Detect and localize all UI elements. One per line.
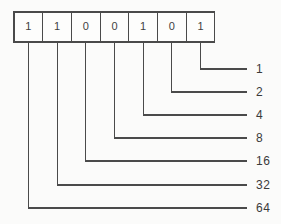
leader-line-64 — [28, 42, 247, 208]
place-value-label-8: 8 — [256, 131, 263, 145]
binary-place-value-diagram: 1100101 1248163264 — [0, 0, 281, 224]
place-value-label-2: 2 — [256, 85, 263, 99]
place-value-label-32: 32 — [256, 178, 270, 192]
bit-value-1: 1 — [54, 20, 60, 32]
place-value-labels-group: 1248163264 — [256, 62, 270, 215]
bit-value-6: 1 — [197, 20, 203, 32]
leader-line-2 — [172, 42, 247, 92]
place-value-label-64: 64 — [256, 201, 270, 215]
bit-value-4: 1 — [140, 20, 146, 32]
bit-value-2: 0 — [83, 20, 89, 32]
bit-cells-row: 1100101 — [14, 12, 215, 42]
leader-line-16 — [86, 42, 247, 161]
leader-line-1 — [201, 42, 247, 69]
place-value-label-1: 1 — [256, 62, 263, 76]
leader-lines-group — [28, 42, 247, 208]
place-value-label-4: 4 — [256, 108, 263, 122]
leader-line-4 — [143, 42, 247, 115]
bit-value-0: 1 — [25, 20, 31, 32]
leader-line-8 — [114, 42, 247, 138]
place-value-label-16: 16 — [256, 154, 270, 168]
bit-value-3: 0 — [111, 20, 117, 32]
bit-value-5: 0 — [169, 20, 175, 32]
diagram-canvas: 1100101 1248163264 — [0, 0, 281, 224]
